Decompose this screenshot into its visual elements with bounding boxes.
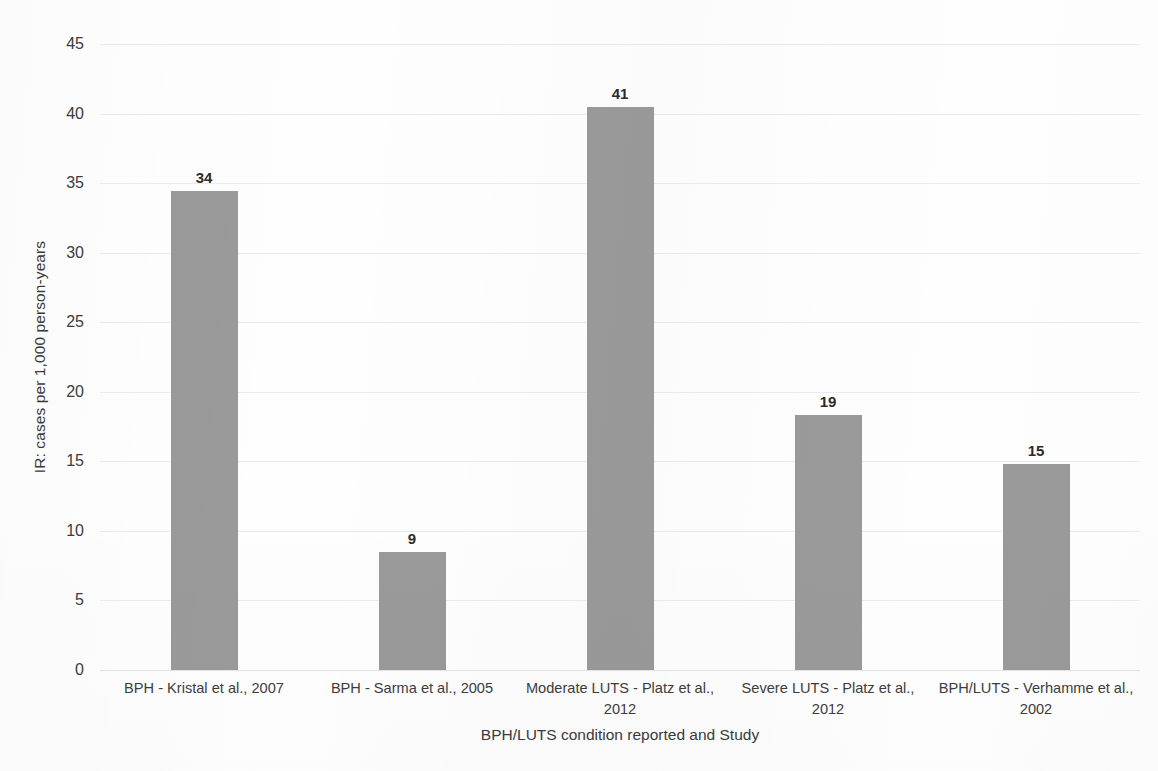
bar-value-label: 15 [932, 442, 1140, 464]
x-axis-title: BPH/LUTS condition reported and Study [100, 726, 1140, 744]
plot-area: 349411915 [100, 44, 1140, 670]
bar-value-label: 9 [308, 530, 516, 552]
y-axis-tick-labels: 051015202530354045 [0, 44, 100, 670]
x-axis-tick-label: BPH/LUTS - Verhamme et al., 2002 [932, 678, 1140, 720]
bar [1003, 464, 1070, 670]
bar [587, 107, 654, 670]
y-axis-tick-label: 5 [26, 591, 100, 609]
x-axis-tick-label: BPH - Kristal et al., 2007 [100, 678, 308, 699]
y-axis-tick-label: 45 [26, 35, 100, 53]
bar-chart-figure: IR: cases per 1,000 person-years 0510152… [0, 0, 1158, 771]
y-axis-tick-label: 35 [26, 174, 100, 192]
y-axis-tick-label: 15 [26, 452, 100, 470]
bar [379, 552, 446, 670]
y-axis-tick-label: 30 [26, 244, 100, 262]
bar-value-label: 34 [100, 169, 308, 191]
gridline [100, 44, 1140, 45]
bar [795, 415, 862, 670]
y-axis-tick-label: 10 [26, 522, 100, 540]
y-axis-tick-label: 40 [26, 105, 100, 123]
x-axis-tick-label: BPH - Sarma et al., 2005 [308, 678, 516, 699]
y-axis-tick-label: 25 [26, 313, 100, 331]
x-axis-tick-label: Moderate LUTS - Platz et al., 2012 [516, 678, 724, 720]
x-axis-tick-label: Severe LUTS - Platz et al., 2012 [724, 678, 932, 720]
bar-value-label: 41 [516, 85, 724, 107]
bar-value-label: 19 [724, 393, 932, 415]
bar [171, 191, 238, 670]
y-axis-tick-label: 0 [26, 661, 100, 679]
y-axis-tick-label: 20 [26, 383, 100, 401]
gridline [100, 670, 1140, 671]
